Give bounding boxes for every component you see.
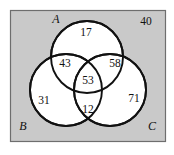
region-count-outside: 40 bbox=[140, 15, 152, 27]
set-label-b: B bbox=[19, 119, 27, 133]
set-label-a: A bbox=[51, 12, 60, 26]
region-count-a-only: 17 bbox=[80, 26, 92, 38]
venn-diagram-canvas: A B C 17 43 58 53 31 12 71 40 bbox=[0, 0, 174, 155]
venn-diagram-figure: A B C 17 43 58 53 31 12 71 40 bbox=[0, 0, 174, 155]
region-count-b-only: 31 bbox=[38, 94, 50, 106]
region-count-c-only: 71 bbox=[128, 92, 140, 104]
set-label-c: C bbox=[148, 119, 157, 133]
region-count-a-b-c: 53 bbox=[82, 74, 94, 86]
region-count-b-and-c-only: 12 bbox=[82, 103, 94, 115]
region-count-a-and-b-only: 43 bbox=[59, 57, 71, 69]
region-count-a-and-c-only: 58 bbox=[109, 57, 121, 69]
